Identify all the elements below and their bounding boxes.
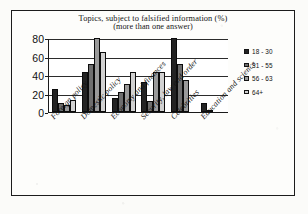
y-axis-tick-label: 60 [32, 52, 44, 64]
y-axis-tick-label: 40 [32, 70, 44, 82]
y-axis-tick-mark [45, 76, 48, 77]
legend-swatch-icon [244, 63, 249, 68]
legend-swatch-icon [244, 76, 249, 81]
y-axis-tick-mark [45, 39, 48, 40]
plot-canvas [48, 39, 228, 113]
legend-swatch-icon [244, 49, 249, 54]
legend-label: 18 - 30 [252, 48, 273, 55]
chart-title-block: Topics, subject to falsified information… [12, 14, 294, 32]
legend-label: 56 - 63 [252, 75, 273, 82]
legend-item: 64+ [244, 89, 304, 96]
legend-label: 64+ [252, 89, 263, 96]
y-axis-tick-mark [45, 113, 48, 114]
legend-item: 56 - 63 [244, 75, 304, 82]
chart-subtitle: (more than one answer) [12, 23, 294, 32]
legend-label: 31 - 55 [252, 62, 273, 69]
bar-groups [49, 39, 228, 112]
y-axis-tick-mark [45, 58, 48, 59]
y-axis-tick-label: 20 [32, 89, 44, 101]
y-axis-tick-label: 0 [38, 107, 44, 119]
y-axis-tick-label: 80 [32, 33, 44, 45]
chart-legend: 18 - 3031 - 5556 - 6364+ [244, 48, 304, 102]
plot-area: 020406080 [48, 39, 228, 113]
legend-item: 18 - 30 [244, 48, 304, 55]
legend-item: 31 - 55 [244, 62, 304, 69]
scanned-page: Topics, subject to falsified information… [0, 0, 308, 214]
legend-swatch-icon [244, 90, 249, 95]
y-axis-tick-mark [45, 95, 48, 96]
chart-frame: Topics, subject to falsified information… [11, 10, 295, 196]
